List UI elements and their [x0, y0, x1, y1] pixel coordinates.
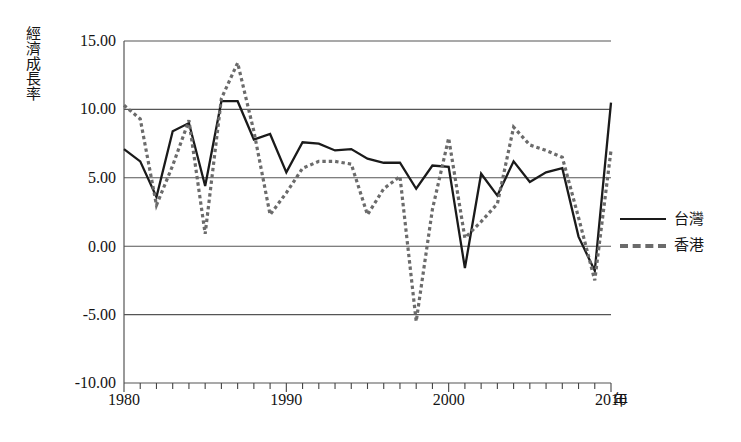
- legend-solid-line-icon: [618, 213, 668, 225]
- legend-label: 台灣: [674, 212, 704, 227]
- series-line-taiwan: [124, 101, 611, 271]
- series-line-hongkong: [124, 63, 611, 322]
- x-tick-label: 2000: [433, 392, 465, 408]
- legend-label: 香港: [674, 238, 704, 253]
- legend-item-hongkong[interactable]: 香港: [618, 232, 738, 258]
- x-tick-label: 1990: [270, 392, 302, 408]
- x-tick-marks: [124, 383, 611, 392]
- data-series-layer: [124, 63, 611, 322]
- legend: 台灣 香港: [618, 206, 738, 258]
- x-axis-unit-label: 年: [613, 392, 628, 408]
- x-tick-label: 1980: [108, 392, 140, 408]
- legend-item-taiwan[interactable]: 台灣: [618, 206, 738, 232]
- legend-dashed-line-icon: [618, 239, 668, 251]
- economic-growth-chart: 經濟成長率 15.00 10.00 5.00 0.00 -5.00 -10.00…: [0, 0, 741, 442]
